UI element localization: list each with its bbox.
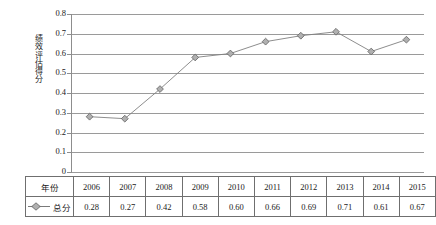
legend-label-total: 总分 [53,201,71,213]
table-cell-total: 0.60 [218,197,254,217]
table-cell-year: 2010 [218,177,254,197]
data-point-marker [227,50,234,57]
data-point-marker [403,36,410,43]
table-cell-year: 2006 [74,177,110,197]
table-row-total: 总分 0.280.270.420.580.600.660.690.710.610… [26,197,436,217]
table-cell-total: 0.61 [363,197,399,217]
data-point-marker [368,48,375,55]
data-point-marker [262,38,269,45]
table-cell-total: 0.66 [254,197,290,217]
table-cell-year: 2013 [327,177,363,197]
data-point-marker [297,32,304,39]
data-point-marker [333,28,340,35]
table-cell-total: 0.69 [291,197,327,217]
series-line-total [90,32,407,119]
data-table: 年份 2006200720082009201020112012201320142… [25,176,436,217]
table-cell-total: 0.71 [327,197,363,217]
data-point-marker [86,113,93,120]
table-cell-total: 0.58 [182,197,218,217]
table-cell-total: 0.42 [146,197,182,217]
row-header-year: 年份 [26,177,74,197]
table-cell-year: 2011 [254,177,290,197]
table-cell-year: 2008 [146,177,182,197]
series-markers-total [86,28,410,122]
legend-diamond-marker-icon [28,202,50,211]
table-cell-year: 2009 [182,177,218,197]
table-cell-total: 0.67 [399,197,435,217]
table-cell-year: 2014 [363,177,399,197]
table-cell-total: 0.27 [110,197,146,217]
table-cell-total: 0.28 [74,197,110,217]
row-header-total: 总分 [26,197,74,217]
table-cell-year: 2007 [110,177,146,197]
table-cell-year: 2012 [291,177,327,197]
table-cell-year: 2015 [399,177,435,197]
table-row-year: 年份 2006200720082009201020112012201320142… [26,177,436,197]
